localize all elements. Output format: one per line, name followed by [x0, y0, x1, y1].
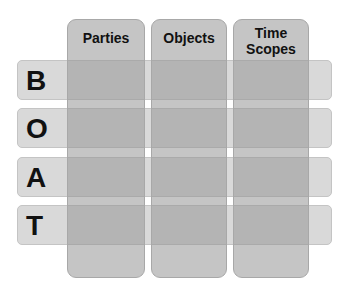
- column-label-time: Time: [234, 25, 308, 41]
- column-parties: Parties: [67, 19, 145, 278]
- row-label-t: T: [26, 208, 43, 244]
- column-time-scopes: Time Scopes: [233, 19, 309, 278]
- column-label-parties: Parties: [68, 30, 144, 46]
- column-label-objects: Objects: [152, 30, 226, 46]
- column-objects: Objects: [151, 19, 227, 278]
- row-label-a: A: [26, 160, 46, 196]
- column-label-scopes: Scopes: [234, 41, 308, 57]
- row-label-o: O: [26, 111, 48, 147]
- column-label-time-scopes: Time Scopes: [234, 25, 308, 57]
- row-label-b: B: [26, 63, 46, 99]
